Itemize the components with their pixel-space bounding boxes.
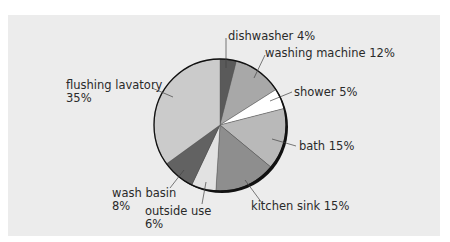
label-kitchen-sink: kitchen sink 15% [251, 200, 349, 213]
pie-chart [0, 0, 450, 242]
label-bath: bath 15% [299, 140, 354, 153]
label-dishwasher: dishwasher 4% [228, 30, 315, 43]
label-washing-machine: washing machine 12% [265, 47, 395, 60]
label-wash-basin-value: 8% [112, 200, 176, 213]
label-wash-basin: wash basin 8% [112, 187, 176, 213]
label-shower: shower 5% [294, 86, 357, 99]
label-flushing-lavatory: flushing lavatory 35% [66, 79, 162, 105]
label-flushing-lavatory-value: 35% [66, 92, 162, 105]
label-outside-use-value: 6% [145, 218, 211, 231]
